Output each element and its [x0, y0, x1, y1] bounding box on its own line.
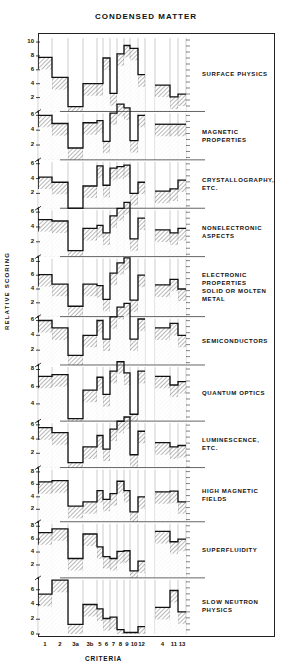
y-tick-label: 8 — [22, 468, 34, 474]
x-tick-label: 11 — [171, 641, 177, 647]
y-tick-label: 4 — [22, 400, 34, 406]
panel-label: SLOW NEUTRON PHYSICS — [202, 598, 259, 614]
chart-plot-area — [0, 0, 292, 670]
y-tick-label: 8 — [22, 257, 34, 263]
y-tick-label: 6 — [22, 421, 34, 427]
panel-label: MAGNETIC PROPERTIES — [202, 128, 247, 144]
x-tick-label: 1 — [43, 641, 46, 647]
y-tick-label: 4 — [22, 126, 34, 132]
y-tick-label: 2 — [22, 299, 34, 305]
y-tick-label: 2 — [22, 141, 34, 147]
y-tick-label: 4 — [22, 80, 34, 86]
y-tick-label: 6 — [22, 480, 34, 486]
x-tick-label: 4 — [161, 641, 164, 647]
panel-label: QUANTUM OPTICS — [202, 389, 265, 397]
x-tick-label: 10 — [131, 641, 138, 647]
y-tick-label: 2 — [22, 449, 34, 455]
y-tick-label: 4 — [22, 223, 34, 229]
y-tick-label: 6 — [22, 208, 34, 214]
y-tick-label: 6 — [22, 66, 34, 72]
y-tick-label: 4 — [22, 435, 34, 441]
y-tick-label: 6 — [22, 160, 34, 166]
x-tick-label: 3b — [86, 641, 93, 647]
y-tick-label: 4 — [22, 285, 34, 291]
y-tick-label: 4 — [22, 175, 34, 181]
y-tick-label: 2 — [22, 561, 34, 567]
panel-label: SUPERFLUIDITY — [202, 546, 257, 554]
y-tick-label: 2 — [22, 238, 34, 244]
y-tick-label: 6 — [22, 271, 34, 277]
y-tick-label: 2 — [22, 189, 34, 195]
y-tick-label: 6 — [22, 535, 34, 541]
panel-label: SURFACE PHYSICS — [202, 70, 268, 78]
y-tick-label: 4 — [22, 493, 34, 499]
panel-label: NONELECTRONIC ASPECTS — [202, 224, 262, 240]
y-tick-label: 2 — [22, 615, 34, 621]
x-tick-label: 5 — [98, 641, 101, 647]
panel-label: SEMICONDUCTORS — [202, 337, 268, 345]
y-tick-label: 6 — [22, 316, 34, 322]
x-tick-label: 12 — [138, 641, 145, 647]
y-tick-label: 8 — [22, 365, 34, 371]
y-tick-label: 8 — [22, 52, 34, 58]
x-tick-label: 8 — [119, 641, 122, 647]
y-tick-label: 2 — [22, 94, 34, 100]
y-tick-label: 4 — [22, 548, 34, 554]
x-tick-label: 2 — [58, 641, 61, 647]
y-tick-label: 4 — [22, 600, 34, 606]
y-tick-label: 2 — [22, 346, 34, 352]
panel-label: CRYSTALLOGRAPHY, ETC. — [202, 176, 274, 192]
y-tick-label: 6 — [22, 586, 34, 592]
y-tick-label: 2 — [22, 505, 34, 511]
panels-group — [35, 38, 205, 634]
panel-label: LUMINESCENCE, ETC. — [202, 436, 259, 452]
x-tick-label: 13 — [179, 641, 186, 647]
y-tick-label: 10 — [22, 38, 34, 44]
x-tick-label: 6 — [105, 641, 108, 647]
x-tick-label: 7 — [112, 641, 115, 647]
y-tick-label: 6 — [22, 383, 34, 389]
y-tick-label: 8 — [22, 522, 34, 528]
y-tick-label: 6 — [22, 111, 34, 117]
y-tick-label: 4 — [22, 331, 34, 337]
panel-label: ELECTRONIC PROPERTIES SOLID OR MOLTEN ME… — [202, 271, 267, 303]
x-tick-label: 3a — [72, 641, 79, 647]
panel-label: HIGH MAGNETIC FIELDS — [202, 487, 258, 503]
y-tick-label: 0 — [22, 630, 34, 636]
x-tick-label: 9 — [125, 641, 128, 647]
